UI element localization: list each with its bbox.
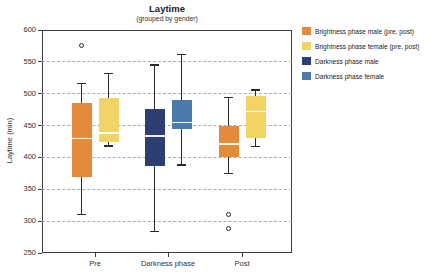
y-tick-mark [38, 253, 42, 254]
boxplot-box [72, 103, 92, 177]
legend-item: Brightness phase female (pre, post) [302, 42, 419, 50]
boxplot-box [99, 98, 119, 142]
y-tick-mark [38, 157, 42, 158]
whisker-line [154, 65, 155, 109]
boxplot-box [172, 100, 192, 129]
whisker-cap [77, 83, 86, 84]
legend-label: Darkness phase female [311, 73, 384, 80]
chart-title: Laytime [42, 3, 292, 14]
whisker-cap [251, 89, 260, 90]
median-line [246, 111, 266, 113]
legend-swatch [302, 72, 311, 80]
median-line [172, 122, 192, 124]
boxplot-box [219, 126, 239, 157]
whisker-cap [224, 173, 233, 174]
y-tick-mark [38, 61, 42, 62]
whisker-line [81, 177, 82, 215]
y-tick-label: 450 [8, 121, 36, 131]
whisker-line [228, 98, 229, 126]
y-tick-label: 250 [8, 248, 36, 258]
legend-label: Brightness phase female (pre, post) [311, 43, 419, 50]
whisker-cap [104, 145, 113, 146]
y-tick-label: 500 [8, 89, 36, 99]
y-tick-mark [38, 30, 42, 31]
gridline [42, 189, 292, 190]
legend-item: Brightness phase male (pre, post) [302, 27, 419, 35]
y-tick-label: 550 [8, 57, 36, 67]
legend-swatch [302, 27, 311, 35]
whisker-cap [251, 146, 260, 147]
chart-subtitle: (grouped by gender) [42, 15, 292, 22]
boxplot-figure: Laytime (grouped by gender) Laytime (min… [0, 0, 429, 279]
y-tick-mark [38, 189, 42, 190]
median-line [99, 132, 119, 134]
y-tick-label: 400 [8, 152, 36, 162]
y-tick-mark [38, 93, 42, 94]
whisker-line [228, 157, 229, 174]
x-tick-label: Darkness phase [128, 259, 208, 268]
y-tick-mark [38, 125, 42, 126]
y-tick-mark [38, 221, 42, 222]
whisker-cap [177, 164, 186, 165]
whisker-cap [104, 73, 113, 74]
whisker-line [154, 166, 155, 232]
gridline [42, 61, 292, 62]
whisker-cap [177, 54, 186, 55]
whisker-line [108, 73, 109, 98]
y-tick-label: 600 [8, 25, 36, 35]
legend-item: Darkness phase male [302, 57, 419, 65]
whisker-line [81, 84, 82, 104]
median-line [72, 138, 92, 140]
legend-swatch [302, 57, 311, 65]
whisker-cap [150, 231, 159, 232]
legend-label: Darkness phase male [311, 58, 379, 65]
legend-label: Brightness phase male (pre, post) [311, 28, 414, 35]
gridline [42, 221, 292, 222]
whisker-cap [150, 64, 159, 65]
boxplot-box [246, 96, 266, 139]
whisker-line [181, 54, 182, 100]
legend: Brightness phase male (pre, post)Brightn… [302, 27, 419, 80]
legend-swatch [302, 42, 311, 50]
x-tick-label: Post [202, 259, 282, 268]
whisker-line [181, 129, 182, 165]
x-tick-label: Pre [55, 259, 135, 268]
y-axis-label: Laytime (min) [5, 86, 14, 196]
whisker-cap [224, 97, 233, 98]
y-tick-label: 300 [8, 216, 36, 226]
whisker-cap [77, 214, 86, 215]
x-tick-mark [95, 253, 96, 257]
x-tick-mark [242, 253, 243, 257]
outlier-point [226, 226, 231, 231]
y-tick-label: 350 [8, 184, 36, 194]
legend-item: Darkness phase female [302, 72, 419, 80]
median-line [145, 135, 165, 137]
boxplot-box [145, 109, 165, 166]
median-line [219, 143, 239, 145]
x-tick-mark [168, 253, 169, 257]
